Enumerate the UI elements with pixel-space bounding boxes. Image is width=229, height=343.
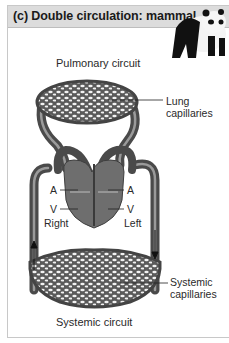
right-ventricle-label: V (50, 203, 57, 215)
heart (64, 160, 124, 228)
systemic-capillaries-label-line2: capillaries (170, 288, 217, 300)
pulmonary-circuit-label: Pulmonary circuit (56, 57, 140, 69)
left-atrium-label: A (127, 184, 134, 196)
right-side-label: Right (44, 217, 69, 229)
lung-capillaries-label-line2: capillaries (166, 107, 213, 119)
left-side-label: Left (124, 217, 142, 229)
lung-capillaries-label-line1: Lung (166, 95, 189, 107)
right-atrium-label: A (50, 184, 57, 196)
systemic-capillaries (30, 250, 160, 307)
systemic-circuit-label: Systemic circuit (56, 316, 132, 328)
panda-icon (172, 9, 226, 58)
left-ventricle-label: V (127, 203, 134, 215)
systemic-capillaries-label-line1: Systemic (170, 276, 213, 288)
lung-capillaries (37, 81, 137, 123)
